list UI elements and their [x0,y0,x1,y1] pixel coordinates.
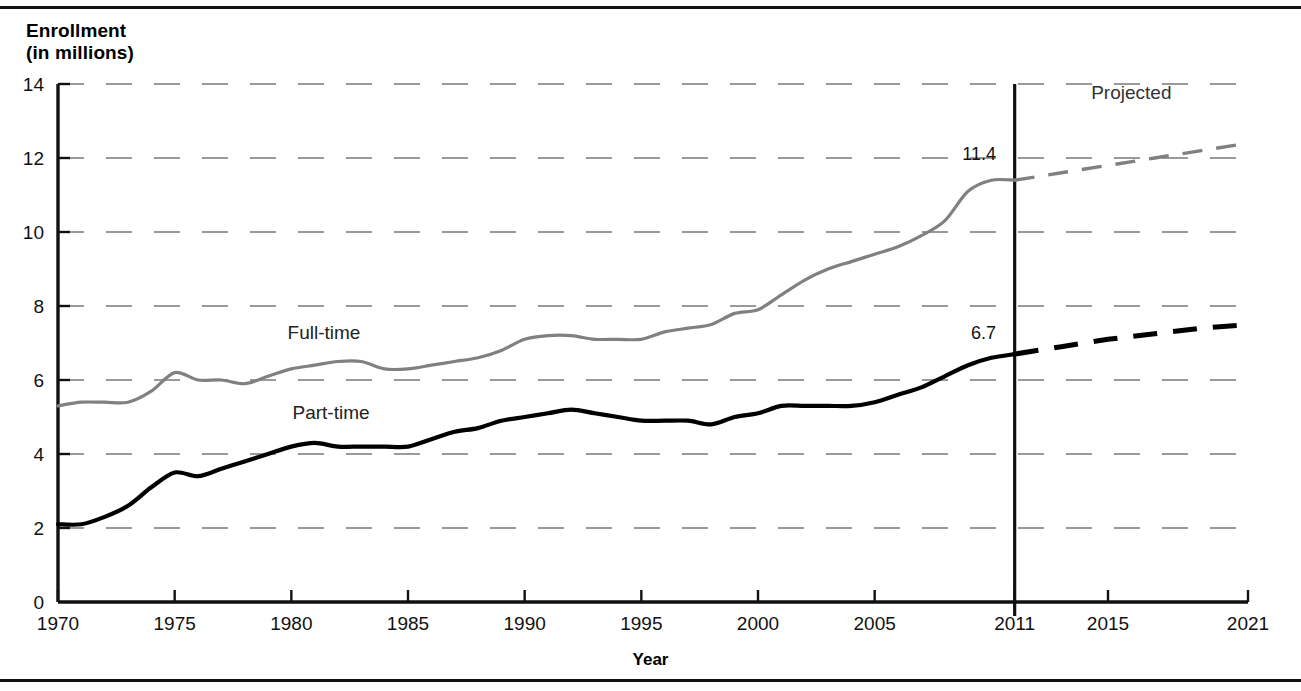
x-tick-label-2000: 2000 [737,613,779,634]
x-tick-label-2005: 2005 [854,613,896,634]
chart-plot-area: 02468101214 1970197519801985199019952000… [0,0,1301,691]
series-label-full-time: Full-time [288,322,361,343]
annotation-projected: Projected [1091,82,1171,103]
x-tick-label-1975: 1975 [154,613,196,634]
y-tick-label-0: 0 [33,592,44,613]
y-tick-label-12: 12 [23,148,44,169]
x-tick-marks [58,590,1248,602]
y-tick-label-14: 14 [23,74,45,95]
x-tick-label-1985: 1985 [387,613,429,634]
x-tick-labels: 1970197519801985199019952000200520112015… [37,613,1269,634]
series-line-full-time-projected [1015,143,1248,180]
y-tick-label-6: 6 [33,370,44,391]
y-tick-label-8: 8 [33,296,44,317]
y-tick-labels: 02468101214 [23,74,45,613]
x-tick-label-1980: 1980 [270,613,312,634]
x-tick-label-2015: 2015 [1087,613,1129,634]
y-tick-label-4: 4 [33,444,44,465]
x-tick-label-1970: 1970 [37,613,79,634]
series-line-part-time-projected [1015,325,1248,355]
value-label-part-time-2011: 6.7 [971,323,996,343]
y-tick-label-2: 2 [33,518,44,539]
series-label-part-time: Part-time [292,402,369,423]
x-tick-label-1995: 1995 [620,613,662,634]
chart-figure: Enrollment (in millions) Year 0246810121… [0,0,1301,691]
x-tick-label-2021: 2021 [1227,613,1269,634]
x-tick-label-2011: 2011 [994,613,1035,634]
y-tick-label-10: 10 [23,222,44,243]
series-line-full-time [58,179,1015,405]
value-label-full-time-2011: 11.4 [962,144,996,164]
y-tick-marks [58,84,70,528]
gridlines [58,84,1248,528]
x-tick-label-1990: 1990 [504,613,546,634]
chart-annotations: ProjectedFull-timePart-time11.46.7 [288,82,1172,423]
